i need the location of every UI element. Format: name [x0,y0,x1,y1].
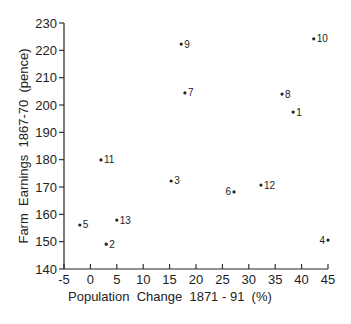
y-axis-title: Farm Earnings 1867-70 (pence) [16,48,31,243]
point-label: 6 [225,186,231,197]
data-point: 9 [180,39,191,50]
x-axis-title: Population Change 1871 - 91 (%) [68,289,272,304]
data-point: 6 [225,186,235,197]
y-tick-label: 220 [35,43,57,58]
point-marker [292,111,295,114]
data-point: 8 [280,89,291,100]
point-marker [180,42,183,45]
data-point: 13 [115,215,131,226]
point-label: 8 [285,89,291,100]
x-tick-label: 15 [162,272,176,287]
x-tick-label: -5 [58,272,70,287]
data-point: 4 [319,235,329,246]
point-label: 10 [317,33,329,44]
point-label: 12 [264,180,276,191]
x-tick-label: 20 [189,272,203,287]
data-point: 3 [170,175,181,186]
point-marker [232,190,235,193]
data-point: 2 [105,239,116,250]
x-tick-label: 5 [113,272,120,287]
point-marker [312,37,315,40]
data-point: 1 [292,107,303,118]
point-label: 3 [174,175,180,186]
x-tick-label: 30 [242,272,256,287]
y-tick-label: 210 [35,70,57,85]
scatter-chart: 140150160170180190200210220230-505101520… [0,0,351,324]
x-tick-label: 25 [215,272,229,287]
point-marker [170,179,173,182]
y-tick-label: 140 [35,262,57,277]
y-tick-label: 150 [35,234,57,249]
point-label: 5 [83,219,89,230]
y-tick-label: 190 [35,125,57,140]
x-tick-label: 0 [87,272,94,287]
x-tick-label: 10 [136,272,150,287]
point-label: 7 [188,87,194,98]
point-marker [99,158,102,161]
y-tick-label: 180 [35,152,57,167]
point-label: 9 [184,39,190,50]
point-marker [326,238,329,241]
data-point: 11 [99,154,114,165]
point-label: 1 [296,107,302,118]
data-point: 7 [183,87,194,98]
y-tick-label: 170 [35,180,57,195]
data-points: 12345678910111213 [78,33,329,249]
point-marker [78,223,81,226]
y-tick-label: 200 [35,98,57,113]
data-point: 12 [259,180,275,191]
point-label: 4 [319,235,325,246]
point-label: 13 [120,215,132,226]
x-tick-label: 35 [268,272,282,287]
point-marker [183,91,186,94]
point-label: 2 [109,239,115,250]
axes: 140150160170180190200210220230-505101520… [35,16,335,288]
point-marker [115,218,118,221]
x-tick-label: 40 [294,272,308,287]
point-marker [259,183,262,186]
y-tick-label: 160 [35,207,57,222]
point-label: 11 [104,154,115,165]
data-point: 5 [78,219,89,230]
x-tick-label: 45 [321,272,335,287]
data-point: 10 [312,33,328,44]
y-tick-label: 230 [35,16,57,31]
point-marker [280,92,283,95]
point-marker [105,243,108,246]
